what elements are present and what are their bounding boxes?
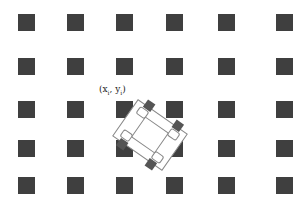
robot-vehicle (0, 0, 305, 205)
pose-label: (xi, yi) (99, 84, 126, 96)
